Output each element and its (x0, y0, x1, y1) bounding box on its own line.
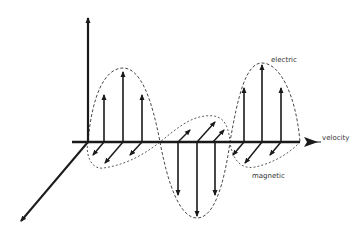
electric-arrows (104, 65, 281, 216)
velocity-label: velocity (322, 134, 349, 142)
electric-label: electric (271, 56, 297, 64)
diagonal-axis (21, 142, 88, 221)
electric-envelope (88, 63, 300, 218)
magnetic-label: magnetic (252, 172, 285, 180)
em-wave-diagram (0, 0, 364, 236)
